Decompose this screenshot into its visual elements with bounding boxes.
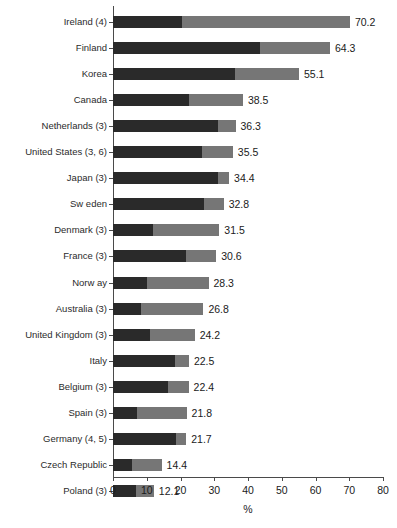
bar-segment-light <box>218 172 229 184</box>
bar-value-label: 32.8 <box>224 191 249 217</box>
bar-segment-dark <box>113 381 168 393</box>
bar-segment-light <box>168 381 188 393</box>
bar-segment-light <box>235 68 299 80</box>
bar-segment-light <box>132 459 162 471</box>
bar-value-label: 22.5 <box>189 348 214 374</box>
bar-row: Canada38.5 <box>0 87 397 113</box>
category-label: Czech Republic <box>0 452 113 478</box>
bar-segment-dark <box>113 146 202 158</box>
x-axis-tick <box>147 477 148 481</box>
category-label: Belgium (3) <box>0 374 113 400</box>
bar-value-label: 70.2 <box>350 9 375 35</box>
bar-row: Ireland (4)70.2 <box>0 9 397 35</box>
category-label: Korea <box>0 61 113 87</box>
bar-segment-dark <box>113 303 141 315</box>
bar-segment-dark <box>113 16 182 28</box>
bar-value-label: 22.4 <box>189 374 214 400</box>
stacked-bar <box>113 120 236 132</box>
bar-row: Korea55.1 <box>0 61 397 87</box>
bar-segment-light <box>153 224 219 236</box>
bar-value-label: 38.5 <box>243 87 268 113</box>
stacked-bar <box>113 355 189 367</box>
category-label: United States (3, 6) <box>0 139 113 165</box>
bar-value-label: 31.5 <box>219 217 244 243</box>
bar-segment-dark <box>113 250 186 262</box>
bar-segment-light <box>204 198 224 210</box>
bar-value-label: 36.3 <box>236 113 261 139</box>
category-label: Netherlands (3) <box>0 113 113 139</box>
category-label: Denmark (3) <box>0 217 113 243</box>
bar-segment-light <box>218 120 236 132</box>
bar-row: Spain (3)21.8 <box>0 400 397 426</box>
x-axis-tick <box>214 477 215 481</box>
bar-segment-light <box>147 277 208 289</box>
bar-segment-dark <box>113 433 176 445</box>
bar-segment-light <box>189 94 243 106</box>
stacked-bar <box>113 433 186 445</box>
plot-area: Ireland (4)70.2Finland64.3Korea55.1Canad… <box>0 0 397 528</box>
bar-value-label: 64.3 <box>330 35 355 61</box>
bar-value-label: 21.7 <box>186 426 211 452</box>
bar-value-label: 55.1 <box>299 61 324 87</box>
bar-segment-dark <box>113 120 218 132</box>
bar-segment-light <box>202 146 233 158</box>
x-axis-tick <box>282 477 283 481</box>
bar-value-label: 28.3 <box>209 270 234 296</box>
bar-segment-dark <box>113 459 132 471</box>
bar-row: France (3)30.6 <box>0 243 397 269</box>
bar-row: Sw eden32.8 <box>0 191 397 217</box>
category-label: Ireland (4) <box>0 9 113 35</box>
stacked-bar <box>113 94 243 106</box>
stacked-bar <box>113 68 299 80</box>
x-axis-tick <box>113 477 114 481</box>
bar-row: Australia (3)26.8 <box>0 296 397 322</box>
bar-segment-dark <box>113 172 218 184</box>
stacked-bar <box>113 407 187 419</box>
bar-row: United Kingdom (3)24.2 <box>0 322 397 348</box>
category-label: Finland <box>0 35 113 61</box>
x-axis-title: % <box>113 503 383 515</box>
x-axis-tick <box>316 477 317 481</box>
bar-segment-dark <box>113 277 147 289</box>
bar-value-label: 26.8 <box>203 296 228 322</box>
bar-segment-dark <box>113 407 137 419</box>
bar-segment-dark <box>113 224 153 236</box>
x-axis-tick <box>248 477 249 481</box>
bar-row: Finland64.3 <box>0 35 397 61</box>
stacked-bar-chart: Ireland (4)70.2Finland64.3Korea55.1Canad… <box>0 0 397 528</box>
stacked-bar <box>113 42 330 54</box>
category-label: Japan (3) <box>0 165 113 191</box>
stacked-bar <box>113 381 189 393</box>
category-label: Australia (3) <box>0 296 113 322</box>
bar-row: Norw ay28.3 <box>0 270 397 296</box>
bar-segment-light <box>182 16 350 28</box>
bar-value-label: 24.2 <box>195 322 220 348</box>
bar-value-label: 21.8 <box>187 400 212 426</box>
category-label: France (3) <box>0 243 113 269</box>
category-label: Spain (3) <box>0 400 113 426</box>
bar-segment-light <box>137 407 187 419</box>
category-label: Germany (4, 5) <box>0 426 113 452</box>
bar-row: Belgium (3)22.4 <box>0 374 397 400</box>
bar-segment-dark <box>113 198 204 210</box>
bar-row: Czech Republic14.4 <box>0 452 397 478</box>
stacked-bar <box>113 459 162 471</box>
stacked-bar <box>113 277 209 289</box>
bar-segment-light <box>175 355 189 367</box>
stacked-bar <box>113 303 203 315</box>
stacked-bar <box>113 198 224 210</box>
x-axis-tick-label: 80 <box>363 484 397 496</box>
bar-value-label: 35.5 <box>233 139 258 165</box>
category-label: Canada <box>0 87 113 113</box>
stacked-bar <box>113 250 216 262</box>
bar-segment-dark <box>113 68 235 80</box>
stacked-bar <box>113 16 350 28</box>
bar-value-label: 14.4 <box>162 452 187 478</box>
bar-row: Netherlands (3)36.3 <box>0 113 397 139</box>
bar-row: Japan (3)34.4 <box>0 165 397 191</box>
bar-segment-light <box>260 42 330 54</box>
bar-segment-light <box>176 433 186 445</box>
stacked-bar <box>113 224 219 236</box>
stacked-bar <box>113 172 229 184</box>
stacked-bar <box>113 329 195 341</box>
